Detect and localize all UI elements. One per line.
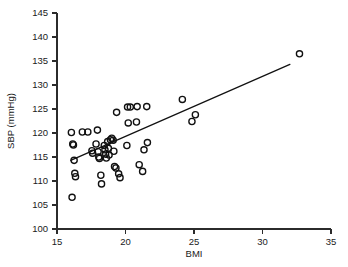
y-tick-label: 100: [32, 223, 48, 234]
y-tick-label: 135: [32, 55, 48, 66]
data-point: [134, 104, 140, 110]
y-tick-label: 105: [32, 199, 48, 210]
data-point: [140, 168, 146, 174]
data-point: [124, 142, 130, 148]
x-tick-label: 25: [189, 236, 200, 247]
data-point: [133, 119, 139, 125]
data-point: [68, 129, 74, 135]
regression-line: [71, 64, 290, 160]
y-tick-label: 110: [33, 175, 48, 186]
x-tick-label: 20: [120, 236, 131, 247]
data-point: [93, 141, 99, 147]
data-point: [116, 171, 122, 177]
y-tick-label: 145: [32, 7, 48, 18]
y-tick-label: 120: [32, 127, 48, 138]
plot-canvas: 100105110115120125130135140145 152025303…: [0, 0, 348, 267]
data-point: [111, 148, 117, 154]
y-tick-label: 140: [32, 31, 48, 42]
data-points: [68, 51, 302, 201]
data-point: [144, 104, 150, 110]
y-axis-ticks: 100105110115120125130135140145: [32, 7, 57, 234]
data-point: [69, 194, 75, 200]
data-point: [113, 109, 119, 115]
y-tick-label: 125: [32, 103, 48, 114]
x-axis-ticks: 1520253035: [52, 229, 337, 247]
x-tick-label: 35: [326, 236, 337, 247]
data-point: [144, 140, 150, 146]
data-point: [98, 172, 104, 178]
x-axis-title: BMI: [186, 248, 203, 259]
y-tick-label: 130: [32, 79, 48, 90]
data-point: [117, 175, 123, 181]
data-point: [141, 147, 147, 153]
data-point: [296, 51, 302, 57]
data-point: [94, 127, 100, 133]
data-point: [98, 181, 104, 187]
data-point: [189, 118, 195, 124]
data-point: [192, 112, 198, 118]
x-tick-label: 15: [52, 236, 63, 247]
scatter-plot-figure: 100105110115120125130135140145 152025303…: [0, 0, 348, 267]
y-tick-label: 115: [33, 151, 48, 162]
y-axis-title: SBP (mmHg): [5, 93, 16, 149]
x-tick-label: 30: [257, 236, 268, 247]
data-point: [136, 162, 142, 168]
data-point: [179, 96, 185, 102]
data-point: [125, 120, 131, 126]
